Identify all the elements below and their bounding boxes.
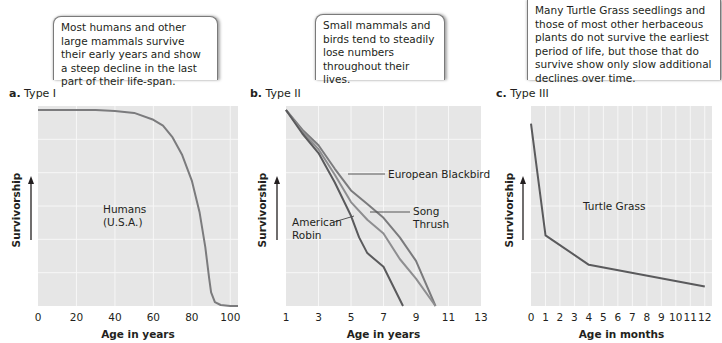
x-tick-label: 2 (557, 311, 564, 323)
x-tick-label: 5 (348, 311, 355, 323)
label-european-blackbird: European Blackbird (388, 168, 490, 180)
x-tick-label: 3 (315, 311, 322, 323)
x-tick-label: 11 (684, 311, 697, 323)
y-axis-label: Survivorship (10, 172, 22, 247)
charts-svg: 020406080100Age in yearsSurvivorship1357… (0, 0, 722, 343)
x-tick-label: 1 (283, 311, 290, 323)
x-tick-label: 60 (147, 311, 160, 323)
x-tick-label: 1 (542, 311, 549, 323)
x-tick-label: 6 (615, 311, 622, 323)
x-tick-label: 13 (474, 311, 487, 323)
x-tick-label: 9 (658, 311, 665, 323)
x-tick-label: 40 (108, 311, 121, 323)
label-american-robin: American (292, 216, 342, 228)
x-tick-label: 100 (220, 311, 240, 323)
label-song-thrush: Song (413, 205, 439, 217)
x-tick-label: 3 (571, 311, 578, 323)
x-tick-label: 8 (643, 311, 650, 323)
x-tick-label: 80 (185, 311, 198, 323)
arrow-head-icon (520, 176, 526, 184)
x-axis-label: Age in months (579, 328, 665, 340)
annotation-humans: Humans (103, 203, 146, 215)
x-tick-label: 7 (380, 311, 387, 323)
x-tick-label: 7 (629, 311, 636, 323)
x-tick-label: 10 (669, 311, 682, 323)
y-axis-label: Survivorship (256, 172, 268, 247)
annotation-turtle-grass: Turtle Grass (582, 200, 645, 212)
label-song-thrush: Thrush (412, 218, 449, 230)
x-tick-label: 9 (413, 311, 420, 323)
y-axis-label: Survivorship (503, 172, 515, 247)
x-axis-label: Age in years (347, 328, 421, 340)
x-tick-label: 11 (442, 311, 455, 323)
arrow-head-icon (28, 176, 34, 184)
x-axis-label: Age in years (101, 328, 175, 340)
x-tick-label: 0 (35, 311, 42, 323)
x-tick-label: 0 (528, 311, 535, 323)
arrow-head-icon (274, 176, 280, 184)
x-tick-label: 20 (70, 311, 83, 323)
annotation-usa: (U.S.A.) (103, 216, 143, 228)
x-tick-label: 4 (586, 311, 593, 323)
x-tick-label: 5 (600, 311, 607, 323)
label-american-robin: Robin (292, 229, 322, 241)
x-tick-label: 12 (698, 311, 711, 323)
